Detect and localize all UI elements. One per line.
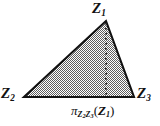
- vertex-label-z1-sub: 1: [101, 8, 106, 18]
- vertex-label-z3-sub: 3: [146, 93, 151, 103]
- triangle-shape: [24, 21, 134, 97]
- vertex-label-z1: Z1: [92, 1, 106, 18]
- vertex-label-z2-sub: 2: [10, 93, 15, 103]
- vertex-label-z1-var: Z: [92, 0, 101, 16]
- vertex-label-z2-var: Z: [1, 85, 10, 101]
- vertex-label-z3: Z3: [137, 86, 151, 103]
- vertex-label-z3-var: Z: [137, 85, 146, 101]
- projection-subscript-z3: Z3: [86, 110, 94, 119]
- projection-figure: Z1 Z2 Z3 πZ2Z3(Z1): [0, 0, 160, 126]
- projection-subscript-z2: Z2: [78, 110, 86, 119]
- projection-close-paren: ): [110, 103, 114, 118]
- vertex-label-z2: Z2: [1, 86, 15, 103]
- projection-formula-label: πZ2Z3(Z1): [71, 104, 114, 120]
- projection-argument-var: Z: [98, 103, 106, 118]
